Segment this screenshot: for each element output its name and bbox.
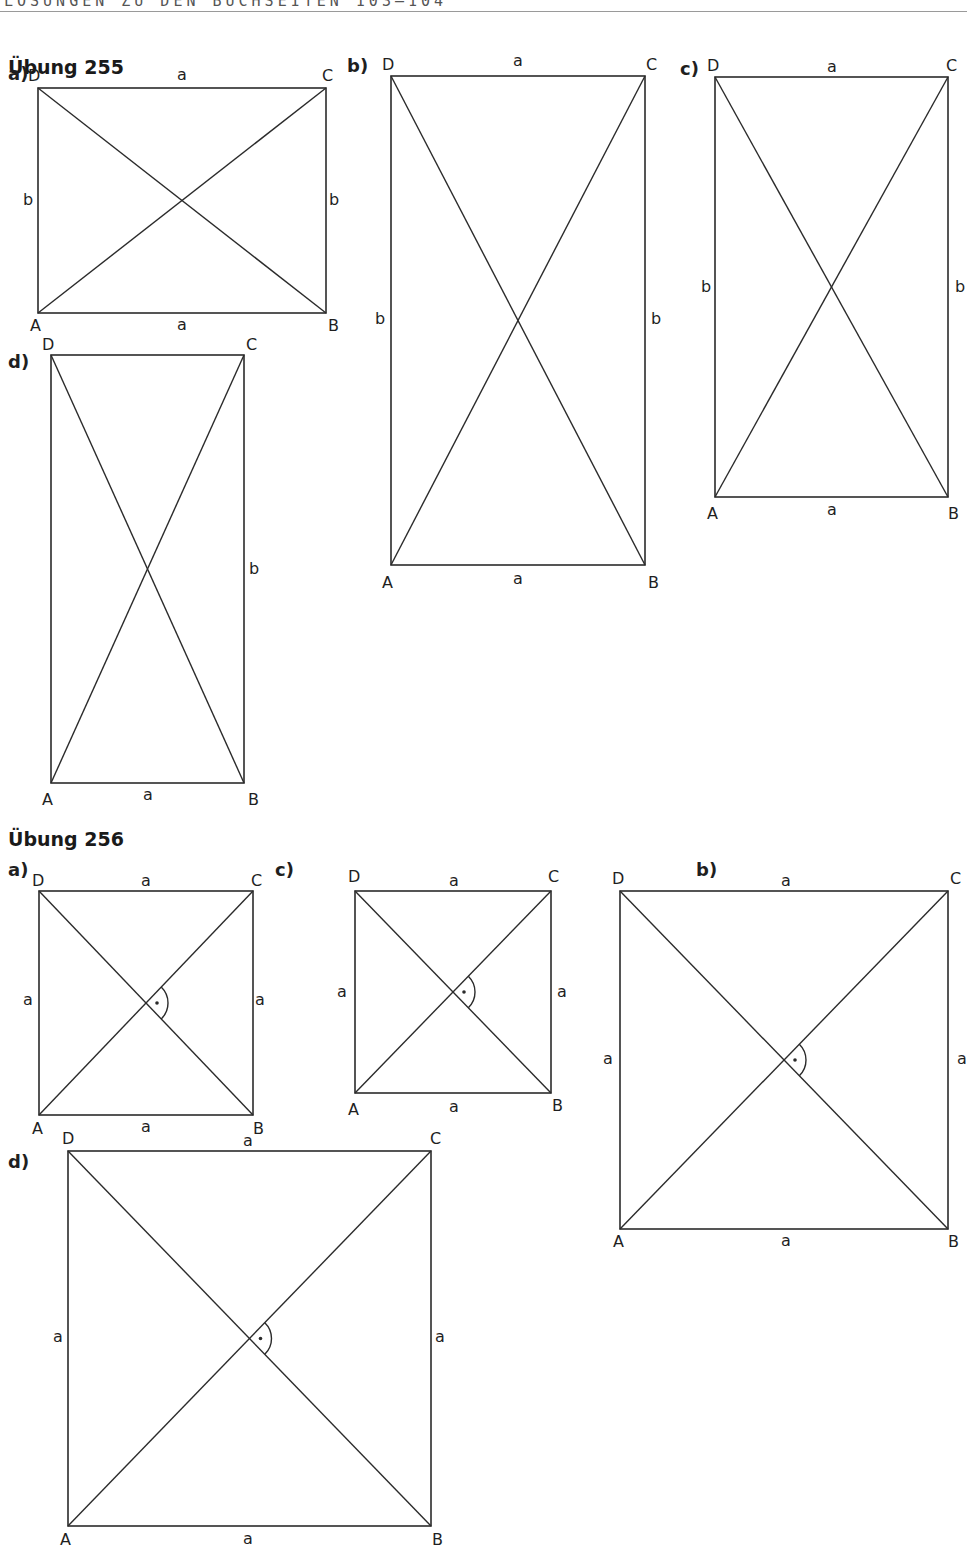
side-length-label: a	[143, 785, 153, 804]
vertex-label-b: B	[948, 1232, 959, 1251]
right-angle-dot-icon	[155, 1001, 159, 1005]
side-length-label: a	[337, 982, 347, 1001]
side-length-label: a	[243, 1529, 253, 1548]
vertex-label-d: D	[62, 1129, 74, 1148]
side-length-label: b	[651, 309, 661, 328]
figure-256-b: b)ABCDaaaa	[603, 859, 967, 1251]
vertex-label-d: D	[382, 55, 394, 74]
vertex-label-b: B	[552, 1096, 563, 1115]
side-length-label: a	[603, 1049, 613, 1068]
part-label: c)	[680, 58, 699, 79]
vertex-label-a: A	[348, 1100, 359, 1119]
side-length-label: a	[449, 871, 459, 890]
side-length-label: b	[955, 277, 965, 296]
vertex-label-d: D	[612, 869, 624, 888]
vertex-label-c: C	[548, 867, 559, 886]
side-length-label: a	[513, 569, 523, 588]
side-length-label: a	[23, 990, 33, 1009]
right-angle-dot-icon	[259, 1337, 263, 1341]
vertex-label-a: A	[32, 1119, 43, 1138]
side-length-label: a	[141, 871, 151, 890]
vertex-label-b: B	[253, 1119, 264, 1138]
side-length-label: a	[513, 51, 523, 70]
vertex-label-d: D	[28, 66, 40, 85]
side-length-label: a	[177, 65, 187, 84]
side-length-label: a	[827, 57, 837, 76]
vertex-label-b: B	[948, 504, 959, 523]
side-length-label: a	[449, 1097, 459, 1116]
figure-255-d: d)ABCDab	[8, 335, 259, 809]
vertex-label-a: A	[613, 1232, 624, 1251]
side-length-label: a	[141, 1117, 151, 1136]
side-length-label: b	[701, 277, 711, 296]
side-length-label: a	[255, 990, 265, 1009]
vertex-label-c: C	[646, 55, 657, 74]
vertex-label-d: D	[42, 335, 54, 354]
figure-256-d: d)ABCDaaaa	[8, 1129, 445, 1549]
vertex-label-c: C	[251, 871, 262, 890]
right-angle-arc-icon	[468, 976, 475, 1008]
vertex-label-a: A	[42, 790, 53, 809]
right-angle-arc-icon	[161, 987, 168, 1019]
part-label: c)	[275, 859, 294, 880]
right-angle-dot-icon	[793, 1058, 797, 1062]
side-length-label: a	[781, 1231, 791, 1250]
side-length-label: a	[435, 1327, 445, 1346]
right-angle-dot-icon	[462, 990, 466, 994]
side-length-label: a	[957, 1049, 967, 1068]
vertex-label-c: C	[430, 1129, 441, 1148]
side-length-label: a	[177, 315, 187, 334]
side-length-label: b	[329, 190, 339, 209]
side-length-label: a	[243, 1131, 253, 1150]
right-angle-arc-icon	[265, 1323, 272, 1355]
part-label: d)	[8, 351, 29, 372]
figure-255-b: b)ABCDaabb	[347, 51, 661, 592]
vertex-label-c: C	[946, 56, 957, 75]
vertex-label-b: B	[328, 316, 339, 335]
side-length-label: b	[249, 559, 259, 578]
part-label: d)	[8, 1151, 29, 1172]
figure-256-a: a)ABCDaaaa	[8, 859, 265, 1138]
vertex-label-b: B	[432, 1530, 443, 1549]
part-label: a)	[8, 859, 28, 880]
side-length-label: a	[557, 982, 567, 1001]
side-length-label: b	[23, 190, 33, 209]
side-length-label: a	[827, 500, 837, 519]
figure-256-c: c)ABCDaaaa	[275, 859, 567, 1119]
vertex-label-a: A	[60, 1530, 71, 1549]
figure-255-a: a)ABCDaabb	[8, 63, 339, 335]
right-angle-arc-icon	[799, 1044, 806, 1076]
figure-255-c: c)ABCDaabb	[680, 56, 965, 523]
side-length-label: b	[375, 309, 385, 328]
vertex-label-d: D	[348, 867, 360, 886]
side-length-label: a	[781, 871, 791, 890]
part-label: b)	[347, 55, 368, 76]
vertex-label-a: A	[707, 504, 718, 523]
vertex-label-d: D	[707, 56, 719, 75]
part-label: a)	[8, 63, 28, 84]
vertex-label-c: C	[322, 66, 333, 85]
vertex-label-a: A	[382, 573, 393, 592]
vertex-label-b: B	[648, 573, 659, 592]
vertex-label-c: C	[246, 335, 257, 354]
vertex-label-c: C	[950, 869, 961, 888]
side-length-label: a	[53, 1327, 63, 1346]
vertex-label-a: A	[30, 316, 41, 335]
part-label: b)	[696, 859, 717, 880]
geometry-canvas: a)ABCDaabbb)ABCDaabbc)ABCDaabbd)ABCDaba)…	[0, 0, 967, 1550]
vertex-label-b: B	[248, 790, 259, 809]
vertex-label-d: D	[32, 871, 44, 890]
